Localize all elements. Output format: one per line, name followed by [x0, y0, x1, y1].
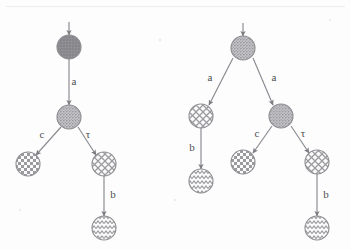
- right-node-left-internal: [189, 104, 213, 128]
- left-node-root: [57, 35, 81, 59]
- right-edge-label-a-left: a: [208, 71, 213, 83]
- left-edge-label-a: a: [72, 75, 77, 87]
- right-edge-label-a-right: a: [272, 71, 277, 83]
- right-edge-label-b-right: b: [323, 188, 329, 200]
- left-edge-label-tau: τ: [86, 128, 91, 140]
- page-background: [0, 0, 351, 250]
- right-edge-label-tau: τ: [301, 127, 306, 139]
- left-node-leaf-b: [92, 216, 116, 240]
- left-node-leaf-c: [16, 152, 40, 176]
- right-node-right-internal: [269, 104, 293, 128]
- right-node-internal-tau: [305, 150, 329, 174]
- right-node-root: [231, 36, 255, 60]
- transition-systems-figure: a c τ b a a b c τ b: [0, 0, 351, 250]
- left-edge-label-b: b: [110, 188, 116, 200]
- right-edge-label-c: c: [255, 127, 260, 139]
- left-node-internal-tau: [92, 152, 116, 176]
- right-node-leaf-c: [231, 150, 255, 174]
- left-edge-label-c: c: [40, 128, 45, 140]
- left-node-internal-a: [57, 105, 81, 129]
- right-node-left-leaf-b: [189, 169, 213, 193]
- right-edge-label-b-left: b: [189, 141, 195, 153]
- figure-canvas: a c τ b a a b c τ b: [0, 0, 351, 250]
- right-node-leaf-b: [305, 216, 329, 240]
